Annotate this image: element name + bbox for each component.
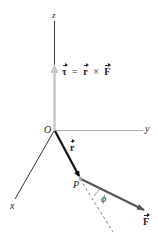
x-axis (15, 131, 54, 199)
y-axis-label: y (145, 124, 149, 134)
force-vector-f (81, 179, 144, 210)
r-symbol: r (70, 143, 74, 153)
origin-label: O (44, 125, 51, 135)
equation-times: × (93, 66, 99, 77)
torque-cross-product-diagram: z O y x P ϕ r F τ = r × F (0, 0, 158, 240)
r-vector-label: r (70, 143, 74, 153)
equation-r: r (83, 67, 87, 77)
equation-f: F (104, 67, 110, 77)
equation-tau: τ (62, 67, 67, 77)
position-vector-r (55, 131, 79, 176)
x-axis-label: x (10, 201, 14, 211)
angle-arc-phi (94, 188, 101, 196)
equation-equals: = (72, 66, 78, 77)
angle-phi-label: ϕ (101, 194, 106, 204)
torque-equation: τ = r × F (62, 67, 110, 77)
z-axis-label: z (52, 11, 56, 20)
diagram-canvas (0, 0, 158, 240)
torque-arrowhead-icon (51, 64, 59, 73)
point-p-label: P (73, 180, 79, 190)
f-symbol: F (143, 217, 149, 227)
f-vector-label: F (143, 217, 149, 227)
